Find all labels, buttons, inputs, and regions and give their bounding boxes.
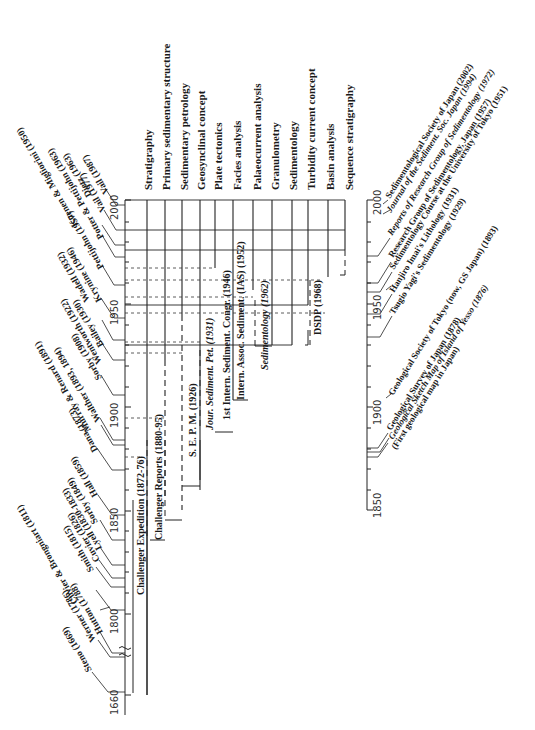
svg-text:Sedimentology (1962): Sedimentology (1962) xyxy=(259,280,271,370)
svg-text:Challenger Expedition (1872-76: Challenger Expedition (1872-76) xyxy=(135,456,147,595)
svg-text:1850: 1850 xyxy=(372,493,383,518)
svg-text:Jour. Sediment. Pet. (1931): Jour. Sediment. Pet. (1931) xyxy=(204,318,216,431)
svg-text:Geosynclinal concept: Geosynclinal concept xyxy=(195,90,207,190)
sedimentology-history-timeline: 2000 1950 1900 1850 1800 1660 xyxy=(0,0,535,730)
svg-text:Plate tectonics: Plate tectonics xyxy=(212,122,224,190)
svg-text:DSDP (1968): DSDP (1968) xyxy=(312,280,324,335)
field-labels: Stratigraphy Primary sedimentary structu… xyxy=(142,43,355,190)
svg-text:Sequence stratigraphy: Sequence stratigraphy xyxy=(343,84,355,190)
svg-text:Intern. Assoc. Sediment. (IAS): Intern. Assoc. Sediment. (IAS) (1952) xyxy=(235,241,247,400)
svg-text:2000: 2000 xyxy=(372,190,383,215)
svg-text:1900: 1900 xyxy=(109,403,120,428)
svg-text:Stratigraphy: Stratigraphy xyxy=(142,129,154,190)
svg-text:1850: 1850 xyxy=(109,508,120,533)
svg-text:Granulometry: Granulometry xyxy=(269,122,281,190)
svg-text:1950: 1950 xyxy=(372,295,383,320)
japan-event-labels: Sedimentological Society of Japan (2002)… xyxy=(383,62,509,451)
event-labels: Challenger Expedition (1872-76) Challeng… xyxy=(135,241,324,595)
svg-text:Sedimentary petrology: Sedimentary petrology xyxy=(178,82,190,190)
svg-text:1900: 1900 xyxy=(372,400,383,425)
svg-text:Turbidity current concept: Turbidity current concept xyxy=(305,68,317,190)
svg-text:Geological Sketch Map of Islan: Geological Sketch Map of Island of Yesso… xyxy=(386,283,490,441)
svg-text:Challenger Reports (1880-95): Challenger Reports (1880-95) xyxy=(153,414,165,540)
svg-text:2000: 2000 xyxy=(109,195,120,220)
svg-text:1660: 1660 xyxy=(109,690,120,715)
svg-text:1800: 1800 xyxy=(109,609,120,634)
svg-text:Basin analysis: Basin analysis xyxy=(324,123,336,190)
svg-text:S. E. P. M. (1926): S. E. P. M. (1926) xyxy=(187,383,199,457)
svg-text:1st Intern. Sediment. Congr. (: 1st Intern. Sediment. Congr. (1946) xyxy=(221,270,233,420)
svg-text:Facies analysis: Facies analysis xyxy=(231,120,243,190)
svg-text:Sedimentology: Sedimentology xyxy=(287,120,299,190)
field-lines xyxy=(147,200,345,695)
svg-text:Primary sedimentary structure: Primary sedimentary structure xyxy=(160,43,172,190)
main-axis-labels: 2000 1950 1900 1850 1800 1660 xyxy=(109,195,120,715)
japan-axis-labels: 2000 1950 1900 1850 xyxy=(372,190,383,518)
main-time-axis xyxy=(119,200,131,715)
svg-text:Palaeocurrent analysis: Palaeocurrent analysis xyxy=(251,83,263,190)
japan-time-axis xyxy=(367,200,373,510)
